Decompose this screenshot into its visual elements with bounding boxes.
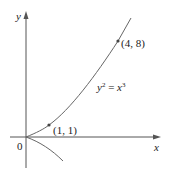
y-axis-arrow-icon <box>24 11 29 19</box>
curve-lower-branch <box>26 137 63 161</box>
origin-label: 0 <box>17 140 23 152</box>
point-4-8-label: (4, 8) <box>121 37 145 50</box>
x-axis-label: x <box>153 141 159 153</box>
point-4-8 <box>116 39 119 42</box>
point-1-1-label: (1, 1) <box>53 124 77 137</box>
equation-label: y2 = x3 <box>96 81 126 93</box>
curve-upper-branch <box>26 18 131 137</box>
curve-diagram: y x 0 (1, 1) (4, 8) y2 = x3 <box>0 0 171 173</box>
x-axis-arrow-icon <box>153 135 161 140</box>
point-1-1 <box>47 123 50 126</box>
y-axis-label: y <box>15 10 21 22</box>
